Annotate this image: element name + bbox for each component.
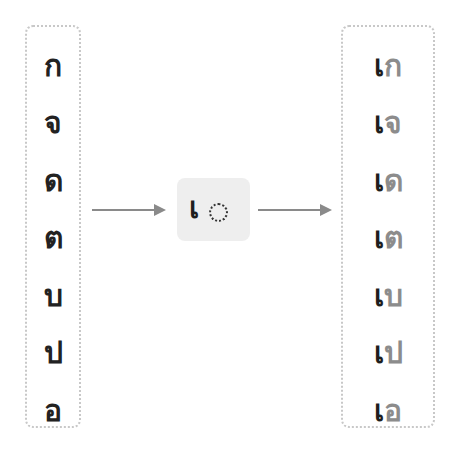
syllable-consonant: บ — [384, 278, 403, 313]
syllable: เป — [343, 335, 433, 371]
syllable: เจ — [343, 105, 433, 141]
vowel-sara-e: เ — [189, 190, 199, 226]
dotted-circle-placeholder-icon — [209, 203, 228, 222]
syllable-consonant: ด — [384, 163, 403, 198]
syllable-vowel: เ — [374, 335, 384, 370]
syllable-vowel: เ — [374, 278, 384, 313]
syllable: เอ — [343, 393, 433, 429]
syllable-consonant: ป — [384, 335, 403, 370]
syllable: เบ — [343, 278, 433, 314]
arrow-right-icon — [258, 209, 330, 211]
consonant: อ — [27, 393, 79, 429]
syllable: เก — [343, 48, 433, 84]
syllable: เด — [343, 163, 433, 199]
syllable-consonant: ก — [384, 48, 402, 83]
syllable-consonant: อ — [384, 393, 402, 428]
consonant: บ — [27, 278, 79, 314]
syllable-vowel: เ — [374, 105, 384, 140]
consonant: ต — [27, 220, 79, 256]
syllable-vowel: เ — [374, 393, 384, 428]
consonant: ป — [27, 335, 79, 371]
consonant-list-box: ก จ ด ต บ ป อ — [25, 25, 81, 428]
vowel-box: เ — [177, 178, 250, 241]
syllable: เต — [343, 220, 433, 256]
syllable-consonant: จ — [384, 105, 402, 140]
arrow-right-icon — [92, 209, 164, 211]
syllable-consonant: ต — [384, 220, 403, 255]
syllable-vowel: เ — [374, 48, 384, 83]
consonant: จ — [27, 105, 79, 141]
consonant: ก — [27, 48, 79, 84]
syllable-list-box: เก เจ เด เต เบ เป เอ — [341, 25, 435, 428]
syllable-vowel: เ — [374, 163, 384, 198]
syllable-vowel: เ — [374, 220, 384, 255]
consonant: ด — [27, 163, 79, 199]
